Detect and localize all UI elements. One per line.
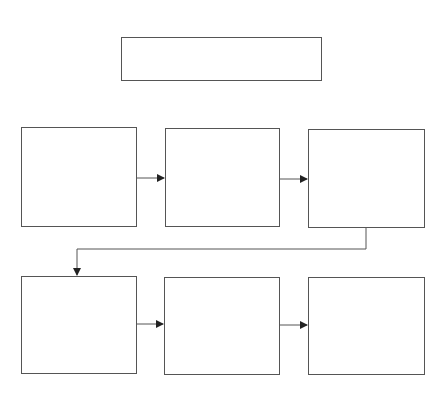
arrow-row1-to-row2: [77, 228, 366, 275]
connectors: [0, 0, 446, 399]
